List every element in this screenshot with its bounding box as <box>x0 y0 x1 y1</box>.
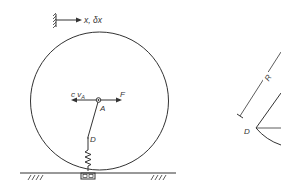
figure-canvas: x, δx A c vA F D <box>0 0 281 192</box>
radius-dimension-line <box>237 52 281 118</box>
center-dot-icon <box>98 99 100 101</box>
arc-curve <box>256 128 281 145</box>
fixed-wall-icon <box>53 13 56 28</box>
center-label: A <box>99 104 105 113</box>
x-axis-arrow-icon <box>56 18 82 23</box>
right-diagram: R D <box>237 52 281 145</box>
point-d-label: D <box>244 127 250 136</box>
applied-force-arrow-icon <box>101 98 122 103</box>
damping-force-label: c vA <box>71 90 85 100</box>
ground-hatch-right-icon <box>151 175 166 180</box>
point-d-dot <box>87 137 89 139</box>
left-diagram: x, δx A c vA F D <box>20 13 176 180</box>
link-a-to-d <box>88 102 98 137</box>
diagram-svg: x, δx A c vA F D <box>0 0 281 192</box>
ground-hatch-left-icon <box>28 175 43 180</box>
reference-axis-label: x, δx <box>83 15 103 25</box>
applied-force-label: F <box>120 90 126 99</box>
radial-line <box>256 93 281 128</box>
slider-block-icon <box>81 173 95 179</box>
spring-attach-label: D <box>90 135 96 144</box>
